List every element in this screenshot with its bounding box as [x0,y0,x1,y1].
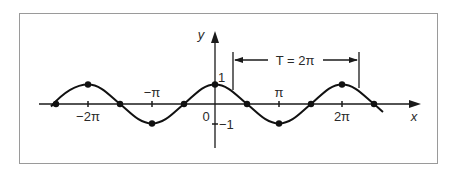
period-arrow-left-icon [234,57,243,63]
point-min [149,120,155,126]
point-zero [308,101,314,107]
point-zero [244,101,250,107]
point-max [85,81,91,87]
x-axis-arrow-icon [409,100,421,108]
y-tick-label-minus-one: −1 [219,117,234,132]
x-tick-label-neg-two-pi: −2π [76,109,100,124]
point-zero [53,101,59,107]
y-axis-label: y [197,27,206,42]
period-label: T = 2π [276,53,315,68]
period-arrow-right-icon [349,57,358,63]
point-min [276,120,282,126]
y-tick-label-one: 1 [218,70,225,85]
cosine-graph: T = 2π y x 1 −1 0 −2π −π π 2π [0,0,449,169]
x-tick-label-two-pi: 2π [334,109,350,124]
x-tick-label-neg-pi: −π [144,85,161,100]
x-axis-label: x [410,109,418,124]
point-zero [371,101,377,107]
point-zero [117,101,123,107]
point-max [339,81,345,87]
y-axis-arrow-icon [211,31,219,43]
origin-label: 0 [202,109,209,124]
x-tick-label-pi: π [275,85,284,100]
point-zero [181,101,187,107]
